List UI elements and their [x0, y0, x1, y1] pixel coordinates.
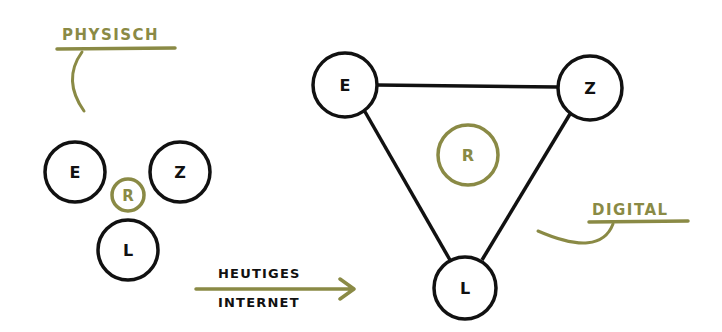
svg-text:Z: Z [584, 79, 596, 98]
digital-underline [589, 221, 688, 222]
physical-label: PHYSISCH [62, 26, 159, 44]
svg-text:L: L [123, 241, 133, 260]
svg-text:E: E [70, 163, 81, 182]
svg-text:R: R [122, 187, 134, 205]
digital-node-r: R [438, 125, 498, 185]
physical-node-z: Z [150, 142, 210, 202]
svg-text:L: L [460, 279, 470, 298]
physical-underline [57, 48, 175, 49]
digital-node-e: E [313, 53, 377, 117]
edge-e-z [377, 85, 558, 87]
digital-label: DIGITAL [592, 201, 669, 219]
digital-node-l: L [434, 257, 496, 319]
transition-label-line2: INTERNET [218, 295, 300, 310]
svg-text:E: E [340, 76, 351, 95]
digital-node-z: Z [558, 56, 622, 120]
svg-text:R: R [462, 146, 474, 165]
physical-node-l: L [98, 220, 158, 280]
physical-node-e: E [45, 142, 105, 202]
transition-label-line1: HEUTIGES [218, 266, 301, 281]
digital-pointer [538, 224, 613, 243]
svg-text:Z: Z [174, 163, 186, 182]
physical-node-r: R [112, 179, 144, 211]
physical-pointer [72, 52, 84, 111]
edge-e-l [364, 110, 450, 260]
diagram-canvas: PHYSISCH E Z L R HEUTIGES INTERNET E Z L… [0, 0, 722, 332]
